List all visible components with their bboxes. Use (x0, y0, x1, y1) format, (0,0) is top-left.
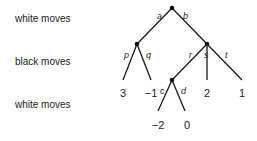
root-node (170, 6, 175, 11)
edge-b (172, 8, 207, 44)
edge-label-s: s (204, 50, 209, 60)
row-label-white-2: white moves (14, 99, 71, 110)
edge-label-c: c (160, 86, 165, 96)
leaf-value-q: −1 (145, 87, 158, 99)
edge-label-t: t (225, 50, 228, 60)
row-label-black: black moves (15, 56, 71, 67)
node-after-a (135, 42, 140, 47)
node-after-r (170, 78, 175, 83)
leaf-value-t: 1 (239, 87, 245, 99)
edge-a (137, 8, 172, 44)
leaf-value-c: −2 (152, 119, 165, 131)
node-after-b (205, 42, 210, 47)
edge-label-d: d (181, 86, 187, 96)
edge-label-p: p (123, 50, 129, 60)
row-label-white-1: white moves (14, 13, 71, 24)
edge-label-b: b (183, 11, 188, 21)
edge-label-q: q (146, 50, 151, 60)
edge-label-a: a (157, 11, 162, 21)
leaf-value-p: 3 (120, 87, 126, 99)
game-tree-diagram: white moves black moves white moves a b … (0, 0, 257, 141)
leaf-value-d: 0 (184, 119, 190, 131)
leaf-value-s: 2 (204, 87, 210, 99)
